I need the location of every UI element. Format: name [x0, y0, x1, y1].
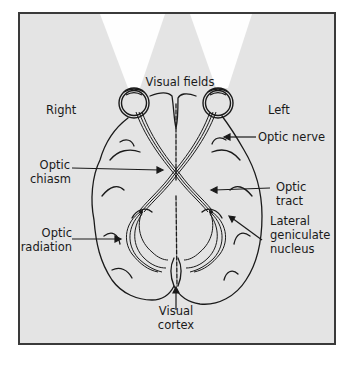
label-lgn-line1: Lateral	[270, 214, 330, 228]
label-optic-tract-line2: tract	[276, 194, 306, 208]
label-optic-nerve: Optic nerve	[258, 130, 325, 144]
label-left: Left	[268, 103, 290, 117]
label-optic-radiation-line2: radiation	[20, 240, 72, 254]
label-lateral-geniculate-nucleus: Lateral geniculate nucleus	[270, 214, 330, 256]
frontal-lobe-outline	[150, 93, 196, 128]
label-lgn-line2: geniculate	[270, 228, 330, 242]
label-optic-radiation: Optic radiation	[20, 226, 72, 254]
label-visual-cortex-line1: Visual	[146, 304, 206, 318]
label-optic-chiasm-line2: chiasm	[30, 172, 70, 186]
label-visual-cortex: Visual cortex	[146, 304, 206, 332]
label-optic-chiasm: Optic chiasm	[30, 158, 70, 186]
midline-fissure	[176, 104, 177, 286]
label-optic-tract-line1: Optic	[276, 180, 306, 194]
label-visual-cortex-line2: cortex	[146, 318, 206, 332]
label-visual-fields: Visual fields	[140, 75, 220, 89]
label-optic-chiasm-line1: Optic	[30, 158, 70, 172]
label-right: Right	[46, 103, 76, 117]
left-lgn-dot	[209, 210, 213, 214]
label-lgn-line3: nucleus	[270, 242, 330, 256]
label-optic-tract: Optic tract	[276, 180, 306, 208]
right-lgn-dot	[139, 210, 143, 214]
label-optic-radiation-line1: Optic	[20, 226, 72, 240]
